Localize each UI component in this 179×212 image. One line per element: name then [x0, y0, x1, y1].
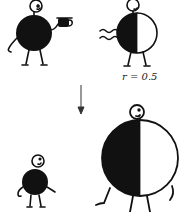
illustration [0, 0, 179, 212]
cup-icon [58, 18, 69, 27]
head-icon [32, 155, 44, 167]
down-arrow-icon [78, 85, 84, 114]
black-half [102, 120, 140, 196]
large-half-black-figure [96, 105, 178, 212]
head-icon [127, 0, 139, 11]
black-half [117, 13, 137, 53]
small-black-figure [18, 155, 55, 207]
ratio-label: r = 0.5 [122, 71, 157, 82]
body-icon [16, 15, 52, 51]
half-black-figure [100, 0, 157, 66]
body-icon [22, 169, 48, 195]
black-figure-with-cup [8, 0, 72, 65]
head-icon [30, 0, 42, 12]
